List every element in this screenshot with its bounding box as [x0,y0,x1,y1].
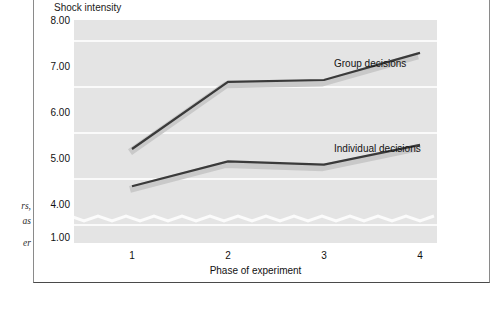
margin-caption-fragment: rs, as er [0,199,31,251]
x-axis-title: Phase of experiment [74,265,437,276]
y-tick-label-4: 4.00 [36,199,70,210]
y-tick-label-7: 7.00 [36,61,70,72]
y-tick-label-8: 8.00 [36,15,70,26]
x-tick-label-1: 1 [120,250,144,261]
x-tick-label-4: 4 [408,250,432,261]
y-tick-label-1: 1.00 [36,232,70,243]
series-label-group-decisions: Group decisions [334,58,406,69]
margin-caption-line-2: as [0,214,31,229]
margin-caption-line-3: er [0,236,31,251]
y-tick-label-5: 5.00 [36,153,70,164]
y-tick-label-6: 6.00 [36,107,70,118]
x-tick-label-2: 2 [216,250,240,261]
series-lines [74,20,437,243]
group-decisions-line-shadow [130,56,418,152]
margin-caption-gap [0,229,31,236]
y-axis-title: Shock intensity [54,2,121,13]
y-axis-break-marker [74,212,437,226]
margin-caption-line-1: rs, [0,199,31,214]
x-tick-label-3: 3 [312,250,336,261]
series-label-individual-decisions: Individual decisions [334,143,421,154]
plot-area [74,20,437,243]
